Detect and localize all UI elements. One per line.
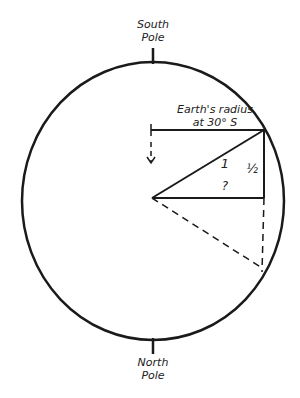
adjacent-label: ? [218, 180, 232, 193]
north-pole-label: North Pole [128, 356, 178, 382]
dashed-radius-line [152, 198, 262, 268]
radius-label: Earth's radius at 30° S [160, 103, 270, 129]
dashed-vertical-line [262, 198, 264, 272]
opposite-label: ½ [245, 163, 259, 176]
north-pole-label-line2: Pole [128, 369, 178, 382]
hypotenuse-label: 1 [218, 157, 232, 170]
south-pole-label-line1: South [128, 18, 178, 31]
radius-label-line1: Earth's radius [160, 103, 270, 116]
radius-label-line2: at 30° S [160, 116, 270, 129]
south-pole-label: South Pole [128, 18, 178, 44]
north-pole-label-line1: North [128, 356, 178, 369]
earth-diagram [0, 0, 300, 398]
south-pole-label-line2: Pole [128, 31, 178, 44]
